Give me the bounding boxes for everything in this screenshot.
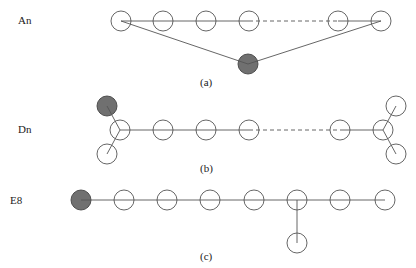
nodes [111, 11, 391, 74]
edge [248, 21, 381, 64]
diagram-an: An (a) [18, 11, 391, 89]
dynkin-diagrams-canvas: An (a) Dn (b) E8 (c) [0, 0, 416, 268]
diagram-label-e8: E8 [10, 194, 23, 206]
diagram-e8: E8 (c) [10, 190, 395, 263]
diagram-caption-b: (b) [200, 162, 213, 175]
nodes [71, 190, 395, 253]
diagram-dn: Dn (b) [18, 96, 406, 175]
diagram-label-an: An [18, 14, 32, 26]
diagram-label-dn: Dn [18, 123, 32, 135]
edges [107, 106, 396, 154]
diagram-caption-a: (a) [200, 76, 213, 89]
edge [121, 21, 248, 64]
diagram-caption-c: (c) [200, 250, 213, 263]
